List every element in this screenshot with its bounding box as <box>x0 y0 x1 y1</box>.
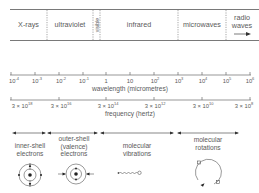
interaction-range-arrows <box>12 132 239 135</box>
radio-arrow-icon <box>234 32 251 36</box>
wavelength-tick-label: 102 <box>151 76 160 83</box>
region-ultraviolet: ultraviolet <box>55 20 86 29</box>
wavelength-tick-label: 104 <box>199 76 208 83</box>
rotations-label-line1: molecular <box>194 136 223 143</box>
spring-vibration-icon <box>118 171 142 174</box>
rotations-label-line2: rotations <box>195 144 221 151</box>
wavelength-tick-label: 103 <box>175 76 184 83</box>
frequency-axis <box>10 97 251 100</box>
vibrations-label-line1: molecular <box>123 142 152 149</box>
frequency-tick-label: 3 × 1012 <box>145 101 167 108</box>
wavelength-tick-label: 10-4 <box>9 76 20 83</box>
region-x-rays: X-rays <box>18 20 39 29</box>
wavelength-tick-label: 10-2 <box>56 76 67 83</box>
frequency-tick-label: 3 × 1014 <box>98 101 120 108</box>
wavelength-tick-label: 1 <box>104 78 107 84</box>
frequency-tick-label: 3 × 1018 <box>12 101 34 108</box>
wavelength-axis-title: wavelength (micrometres) <box>91 85 168 93</box>
frequency-tick-label: 3 × 108 <box>235 101 254 108</box>
vibrations-label-line2: vibrations <box>123 150 152 157</box>
wavelength-tick-label: 10-1 <box>79 76 90 83</box>
frequency-tick-label: 3 × 1010 <box>193 101 215 108</box>
inner-shell-label-line2: electrons <box>17 150 44 157</box>
frequency-tick-labels: 3 × 1018 3 × 1016 3 × 1014 3 × 1012 3 × … <box>12 101 254 108</box>
wavelength-axis <box>10 72 251 75</box>
region-visible: visible <box>94 18 100 33</box>
atom-outer-shell-icon <box>58 164 94 184</box>
region-radio-line2: waves <box>231 21 253 30</box>
outer-shell-label-line1: outer-shell <box>59 135 90 142</box>
inner-shell-label-line1: inner-shell <box>15 142 46 149</box>
frequency-axis-title: frequency (hertz) <box>105 110 155 118</box>
outer-shell-label-line3: electrons <box>61 150 88 157</box>
electromagnetic-spectrum-diagram: X-rays ultraviolet visible infrared micr… <box>0 0 259 193</box>
frequency-tick-label: 3 × 1016 <box>51 101 73 108</box>
region-infrared: infrared <box>127 20 151 29</box>
wavelength-tick-label: 106 <box>246 76 255 83</box>
wavelength-tick-label: 105 <box>223 76 232 83</box>
rotation-icon <box>195 159 221 187</box>
atom-inner-shell-icon <box>18 163 42 187</box>
wavelength-tick-label: 10 <box>127 78 133 84</box>
region-microwaves: microwaves <box>183 20 221 29</box>
wavelength-tick-labels: 10-4 10-3 10-2 10-1 1 10 102 103 104 105… <box>9 76 255 83</box>
wavelength-tick-label: 10-3 <box>32 76 43 83</box>
